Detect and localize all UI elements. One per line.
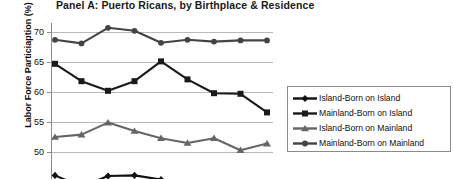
data-point-square [264,109,270,115]
legend-item-0[interactable]: Island-Born on Island [292,91,450,106]
series-line [55,61,267,112]
series-layer [51,23,273,179]
data-point-square [302,111,308,117]
data-point-circle [211,39,217,45]
data-point-circle [238,38,244,44]
data-point-circle [52,37,58,43]
data-point-square [52,61,58,67]
chart-figure: Panel A: Puerto Ricans, by Birthplace & … [0,0,454,179]
data-point-circle [105,25,111,31]
legend-item-3[interactable]: Mainland-Born on Mainland [292,136,450,151]
data-point-circle [302,141,308,147]
series-square [52,58,270,115]
data-point-square [185,76,191,82]
data-point-diamond [302,95,309,102]
series-triangle [51,119,271,153]
data-point-square [211,90,217,96]
data-point-square [238,91,244,97]
legend-swatch-square-icon [292,107,318,120]
data-point-circle [132,28,138,34]
data-point-circle [264,38,270,44]
y-tick-label: 45 [17,178,44,180]
legend-label: Mainland-Born on Mainland [319,139,424,148]
data-point-square [105,88,111,94]
y-tick-label: 70 [17,28,44,37]
legend-item-2[interactable]: Island-Born on Mainland [292,121,450,136]
data-point-diamond [52,172,59,179]
data-point-diamond [158,176,165,179]
data-point-square [79,78,85,84]
legend-item-1[interactable]: Mainland-Born on Island [292,106,450,121]
legend-swatch-triangle-icon [292,122,318,135]
chart-title: Panel A: Puerto Ricans, by Birthplace & … [56,0,396,11]
data-point-square [158,58,164,64]
legend-swatch-diamond-icon [292,92,318,105]
plot-area: 455055606570 [51,23,273,179]
data-point-circle [79,41,85,47]
y-tick-label: 55 [17,118,44,127]
data-point-diamond [131,172,138,179]
legend: Island-Born on IslandMainland-Born on Is… [287,86,451,152]
data-point-square [132,78,138,84]
y-tick-label: 50 [17,148,44,157]
y-tick-label: 60 [17,88,44,97]
series-diamond [52,172,271,179]
series-circle [52,25,270,46]
data-point-triangle [104,119,112,125]
data-point-triangle [263,140,271,146]
legend-label: Mainland-Born on Island [319,109,412,118]
y-tick-label: 65 [17,58,44,67]
legend-label: Island-Born on Island [319,94,400,103]
legend-swatch-circle-icon [292,137,318,150]
data-point-circle [185,37,191,43]
data-point-circle [158,40,164,46]
legend-label: Island-Born on Mainland [319,124,412,133]
